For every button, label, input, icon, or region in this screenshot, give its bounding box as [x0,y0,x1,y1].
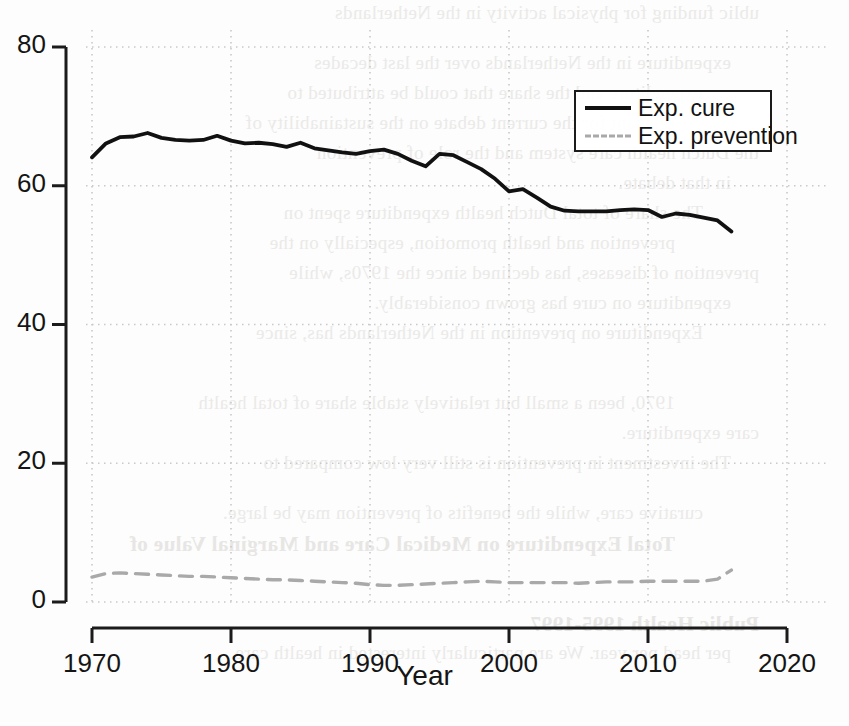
legend-label-exp-prevention: Exp. prevention [638,123,798,150]
legend-swatch-solid-line-icon [585,101,631,115]
legend-label-exp-cure: Exp. cure [638,95,735,122]
legend-swatch-dashed-line-icon [585,129,631,143]
series-line-exp-prevention [92,570,731,585]
legend-entry-exp-cure[interactable]: Exp. cure [576,94,770,122]
data-series-layer [92,133,731,585]
legend-entry-exp-prevention[interactable]: Exp. prevention [576,122,770,150]
figure-page: ublic funding for physical activity in t… [0,0,849,726]
chart-legend[interactable]: Exp. cure Exp. prevention [574,90,772,152]
